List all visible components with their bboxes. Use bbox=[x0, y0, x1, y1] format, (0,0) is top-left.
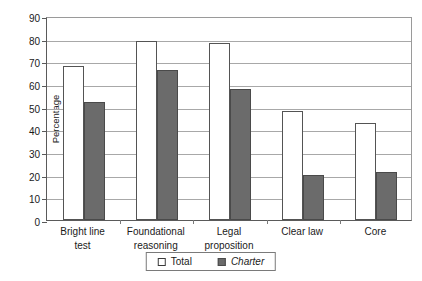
legend-item-charter: Charter bbox=[218, 256, 264, 267]
chart-legend: Total Charter bbox=[146, 252, 276, 271]
y-axis-tick-label: 80 bbox=[29, 35, 40, 46]
y-axis-tick-label: 20 bbox=[29, 171, 40, 182]
x-axis-tick bbox=[267, 220, 268, 224]
legend-label-charter: Charter bbox=[231, 256, 264, 267]
bar-group bbox=[340, 18, 413, 220]
bar-total bbox=[63, 66, 84, 220]
x-axis-tick bbox=[120, 220, 121, 224]
bar-group bbox=[193, 18, 266, 220]
bar-charter bbox=[157, 70, 178, 220]
bar-group bbox=[267, 18, 340, 220]
x-axis-label: Foundationalreasoning bbox=[119, 225, 192, 252]
x-axis-label-line: Foundational bbox=[119, 225, 192, 239]
bar-chart: Percentage 9080706050403020100 Bright li… bbox=[0, 0, 422, 281]
plot-area: 9080706050403020100 bbox=[46, 17, 412, 221]
x-axis-label-line: proposition bbox=[192, 239, 265, 253]
x-axis-label-line: Clear law bbox=[266, 225, 339, 239]
charter-swatch-icon bbox=[218, 258, 226, 266]
x-axis-label-line: Bright line bbox=[46, 225, 119, 239]
y-axis-tick-label: 50 bbox=[29, 103, 40, 114]
bar-total bbox=[136, 41, 157, 220]
y-axis-tick-label: 40 bbox=[29, 126, 40, 137]
y-axis-tick-label: 10 bbox=[29, 194, 40, 205]
x-axis-label-line: Core bbox=[339, 225, 412, 239]
x-axis-label-line: test bbox=[46, 239, 119, 253]
total-swatch-icon bbox=[158, 258, 166, 266]
bar-total bbox=[209, 43, 230, 220]
bar-group bbox=[120, 18, 193, 220]
legend-label-total: Total bbox=[171, 256, 192, 267]
y-axis-tick-label: 60 bbox=[29, 81, 40, 92]
y-axis-tick-label: 30 bbox=[29, 149, 40, 160]
y-axis-tick-label: 0 bbox=[34, 217, 40, 228]
y-axis-tick-label: 90 bbox=[29, 13, 40, 24]
bar-groups bbox=[47, 18, 411, 220]
bar-charter bbox=[84, 102, 105, 220]
x-axis-label: Core bbox=[339, 225, 412, 239]
bar-charter bbox=[303, 175, 324, 220]
bar-charter bbox=[230, 89, 251, 220]
x-axis-tick bbox=[340, 220, 341, 224]
bar-group bbox=[47, 18, 120, 220]
x-axis-label-line: reasoning bbox=[119, 239, 192, 253]
legend-item-total: Total bbox=[158, 256, 192, 267]
tick-mark bbox=[42, 222, 47, 223]
y-axis-tick-label: 70 bbox=[29, 58, 40, 69]
x-axis-label-line: Legal bbox=[192, 225, 265, 239]
x-axis-label: Bright linetest bbox=[46, 225, 119, 252]
bar-total bbox=[282, 111, 303, 220]
x-axis-tick bbox=[193, 220, 194, 224]
x-axis-label: Clear law bbox=[266, 225, 339, 239]
bar-charter bbox=[376, 172, 397, 220]
bar-total bbox=[355, 123, 376, 220]
x-axis-label: Legalproposition bbox=[192, 225, 265, 252]
